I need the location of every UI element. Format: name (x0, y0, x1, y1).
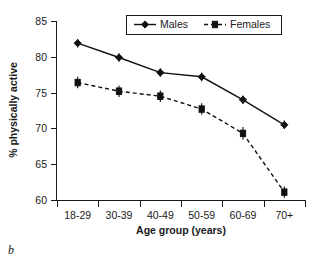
y-tick-label: 85 (35, 15, 47, 27)
legend-label: Females (230, 18, 270, 30)
y-tick-label: 70 (35, 122, 47, 134)
y-tick-label: 80 (35, 51, 47, 63)
data-point-marker (240, 130, 245, 136)
x-tick-label: 18-29 (64, 209, 91, 221)
x-axis-ticks (58, 201, 306, 208)
x-axis-title: Age group (years) (136, 224, 226, 236)
data-point-marker (282, 189, 287, 195)
y-axis: 606570758085 % physically active (7, 15, 57, 206)
x-tick-label: 50-59 (188, 209, 215, 221)
figure-panel: 606570758085 % physically active 18-2930… (0, 0, 318, 265)
data-point-marker (74, 40, 81, 47)
data-point-marker (157, 69, 164, 76)
data-point-marker (239, 96, 246, 103)
series-females (75, 77, 287, 198)
data-point-marker (198, 73, 205, 80)
data-point-marker (281, 121, 288, 128)
data-point-marker (115, 54, 122, 61)
x-tick-label: 70+ (275, 209, 293, 221)
data-point-marker (75, 79, 80, 85)
data-point-marker (116, 88, 121, 94)
data-point-marker (199, 106, 204, 112)
y-axis-tick-labels: 606570758085 (35, 15, 47, 206)
x-tick-label: 60-69 (230, 209, 257, 221)
y-axis-ticks (51, 22, 57, 201)
x-axis-tick-labels: 18-2930-3940-4950-5960-6970+ (64, 209, 293, 221)
y-tick-label: 65 (35, 158, 47, 170)
figure-caption: b (8, 243, 14, 258)
legend-marker (212, 21, 217, 27)
x-tick-label: 30-39 (106, 209, 133, 221)
plot-series-group (74, 39, 288, 198)
series-males (74, 39, 288, 129)
physical-activity-line-chart: 606570758085 % physically active 18-2930… (0, 0, 318, 265)
legend-label: Males (160, 18, 188, 30)
y-axis-title: % physically active (7, 62, 19, 158)
chart-legend: MalesFemales (127, 16, 282, 35)
x-axis: 18-2930-3940-4950-5960-6970+ Age group (… (57, 201, 307, 237)
y-tick-label: 60 (35, 194, 47, 206)
series-line (78, 83, 285, 193)
y-tick-label: 75 (35, 87, 47, 99)
x-tick-label: 40-49 (147, 209, 174, 221)
series-line (78, 43, 285, 125)
data-point-marker (158, 93, 163, 99)
